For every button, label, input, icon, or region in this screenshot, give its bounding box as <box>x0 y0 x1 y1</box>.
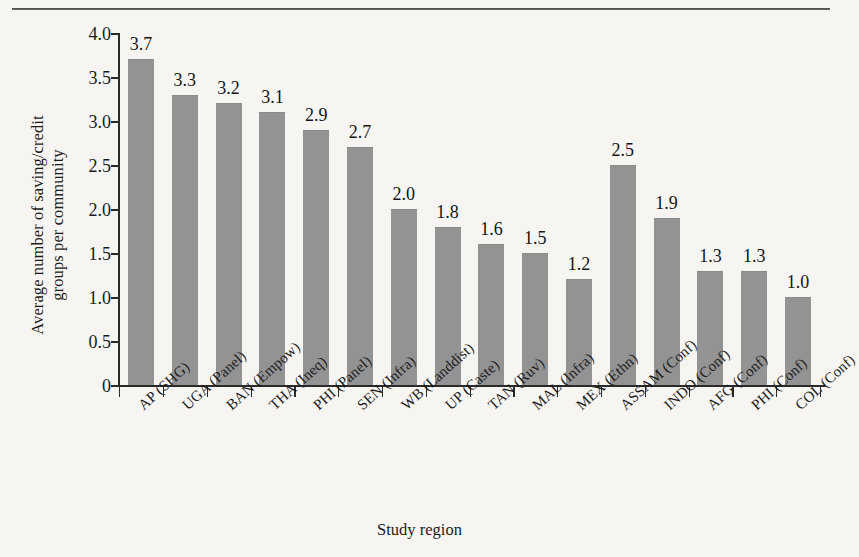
y-tick-mark <box>111 297 119 299</box>
bar[interactable] <box>216 103 242 385</box>
bar[interactable] <box>128 59 154 385</box>
y-tick-label: 4.0 <box>89 24 112 45</box>
y-tick-mark <box>111 165 119 167</box>
bar[interactable] <box>303 130 329 385</box>
y-tick-mark <box>111 209 119 211</box>
y-tick-label: 2.0 <box>89 200 112 221</box>
bar[interactable] <box>172 95 198 385</box>
plot-area: 00.51.01.52.02.53.03.54.0 3.73.33.23.12.… <box>118 33 825 385</box>
bar-value-label: 3.7 <box>130 34 153 55</box>
y-tick-mark <box>111 253 119 255</box>
bar-value-label: 3.2 <box>217 78 240 99</box>
bar-value-label: 1.5 <box>524 228 547 249</box>
x-tick-mark <box>119 386 120 397</box>
bar-value-label: 2.7 <box>349 122 372 143</box>
y-tick-label: 0.5 <box>89 332 112 353</box>
bar-value-label: 1.0 <box>787 272 810 293</box>
bar-value-label: 2.0 <box>393 184 416 205</box>
y-tick-label: 3.0 <box>89 112 112 133</box>
y-tick-label: 2.5 <box>89 156 112 177</box>
y-axis-title-line-2: groups per community <box>48 149 68 300</box>
bar-value-label: 2.9 <box>305 105 328 126</box>
y-tick-mark <box>111 341 119 343</box>
x-axis-title: Study region <box>0 520 839 540</box>
y-tick-label: 1.0 <box>89 288 112 309</box>
bar-value-label: 1.3 <box>743 246 766 267</box>
bar[interactable] <box>259 112 285 385</box>
y-tick-mark <box>111 33 119 35</box>
bar-value-label: 2.5 <box>612 140 635 161</box>
bar[interactable] <box>347 147 373 385</box>
bar-value-label: 1.3 <box>699 246 722 267</box>
y-tick-mark <box>111 121 119 123</box>
y-tick-mark <box>111 77 119 79</box>
y-tick-mark <box>111 385 119 387</box>
y-axis-title: Average number of saving/credit groups p… <box>20 40 76 410</box>
bar-value-label: 1.8 <box>436 202 459 223</box>
bar-value-label: 3.1 <box>261 87 284 108</box>
bar-value-label: 1.9 <box>655 193 678 214</box>
bar-value-label: 1.2 <box>568 254 591 275</box>
y-tick-label: 1.5 <box>89 244 112 265</box>
top-horizontal-rule <box>12 8 830 10</box>
bar-value-label: 1.6 <box>480 219 503 240</box>
y-tick-label: 3.5 <box>89 68 112 89</box>
bar-value-label: 3.3 <box>174 70 197 91</box>
y-tick-label: 0 <box>102 376 111 397</box>
y-axis-title-line-1: Average number of saving/credit <box>28 115 48 335</box>
